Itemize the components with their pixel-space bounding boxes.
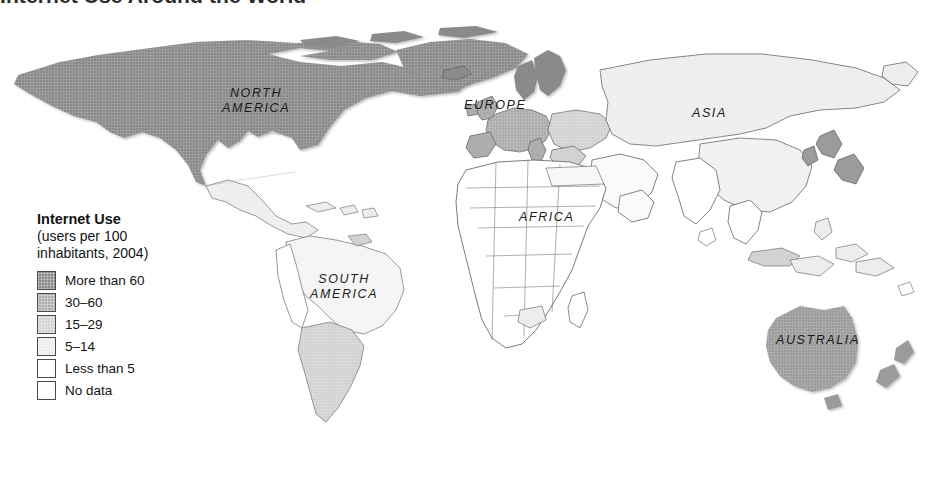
map-legend: Internet Use (users per 100 inhabitants,… — [37, 211, 197, 401]
legend-swatch — [37, 271, 56, 290]
legend-row: No data — [37, 379, 197, 401]
legend-row: 15–29 — [37, 313, 197, 335]
region-new-zealand — [876, 340, 914, 388]
region-pacific-islands — [856, 258, 914, 296]
figure-container: Internet Use Around the World — [0, 0, 933, 477]
region-australia — [766, 306, 858, 410]
legend-label: No data — [65, 383, 112, 398]
region-africa — [456, 160, 606, 348]
legend-entries: More than 6030–6015–295–14Less than 5No … — [37, 269, 197, 401]
region-caribbean — [306, 202, 378, 218]
legend-label: 5–14 — [65, 339, 95, 354]
figure-title: Internet Use Around the World — [0, 0, 306, 8]
region-japan-korea — [802, 130, 864, 184]
legend-row: 5–14 — [37, 335, 197, 357]
legend-label: Less than 5 — [65, 361, 135, 376]
legend-swatch — [37, 381, 56, 400]
legend-label: 30–60 — [65, 295, 103, 310]
region-mexico-central-america — [206, 180, 318, 238]
legend-swatch — [37, 359, 56, 378]
legend-label: More than 60 — [65, 273, 145, 288]
legend-swatch — [37, 337, 56, 356]
legend-swatch — [37, 315, 56, 334]
legend-title: Internet Use — [37, 211, 197, 228]
legend-row: Less than 5 — [37, 357, 197, 379]
legend-swatch — [37, 293, 56, 312]
legend-row: More than 60 — [37, 269, 197, 291]
legend-row: 30–60 — [37, 291, 197, 313]
region-russia-asia — [600, 54, 918, 146]
region-south-america — [276, 234, 404, 422]
legend-subtitle: (users per 100 inhabitants, 2004) — [37, 228, 197, 262]
legend-label: 15–29 — [65, 317, 103, 332]
